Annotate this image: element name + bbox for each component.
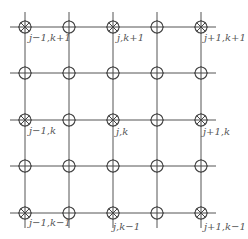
label-j-minus-1-k-plus-1: j−1,k+1 xyxy=(29,33,71,43)
circle-cross-node-icon xyxy=(62,113,76,127)
label-j-minus-1-k-minus-1: j−1,k−1 xyxy=(29,218,71,228)
circle-x-node-icon xyxy=(106,206,120,220)
circle-cross-node-icon xyxy=(62,66,76,80)
label-j-plus-1-k-minus-1: j+1,k−1 xyxy=(204,222,246,232)
circle-cross-node-icon xyxy=(150,66,164,80)
label-j-minus-1-k: j−1,k xyxy=(29,126,56,136)
circle-x-node-icon xyxy=(194,206,208,220)
circle-cross-node-icon xyxy=(62,159,76,173)
circle-cross-node-icon xyxy=(18,159,32,173)
label-j-k-minus-1: j,k−1 xyxy=(113,222,140,232)
circle-cross-node-icon xyxy=(106,159,120,173)
label-j-plus-1-k-plus-1: j+1,k+1 xyxy=(204,33,246,43)
circle-cross-node-icon xyxy=(106,66,120,80)
circle-cross-node-icon xyxy=(150,113,164,127)
circle-cross-node-icon xyxy=(150,20,164,34)
label-j-k: j,k xyxy=(116,127,128,137)
circle-cross-node-icon xyxy=(194,66,208,80)
circle-x-node-icon xyxy=(106,113,120,127)
circle-cross-node-icon xyxy=(194,159,208,173)
circle-x-node-icon xyxy=(194,113,208,127)
circle-cross-node-icon xyxy=(18,66,32,80)
circle-cross-node-icon xyxy=(150,159,164,173)
label-j-plus-1-k: j+1,k xyxy=(203,127,230,137)
label-j-k-plus-1: j,k+1 xyxy=(117,33,144,43)
circle-cross-node-icon xyxy=(150,206,164,220)
